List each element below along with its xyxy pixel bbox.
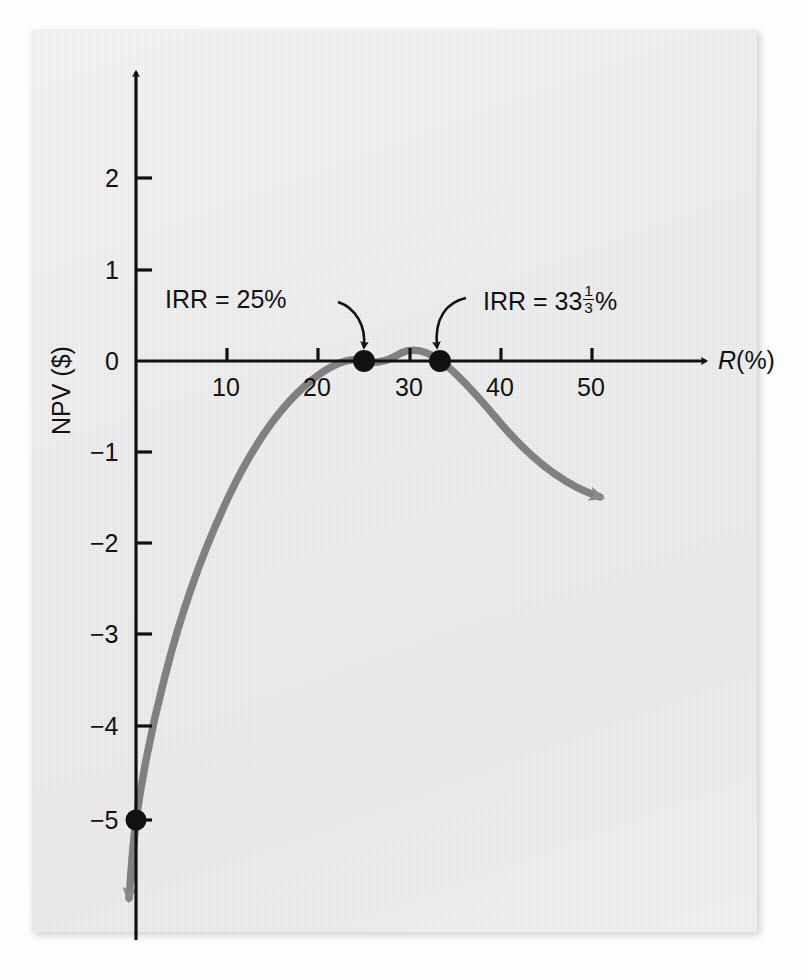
y-axis-ticks [136, 178, 152, 820]
y-tick-label-m3: −3 [90, 622, 119, 647]
marker-irr-25 [353, 350, 375, 372]
fraction-one-third: 13 [583, 283, 594, 316]
y-tick-label-m5: −5 [90, 808, 119, 833]
y-tick-label-0: 0 [105, 349, 119, 374]
fraction-denominator: 3 [583, 300, 594, 316]
x-tick-label-20: 20 [303, 375, 331, 400]
y-axis-title: NPV ($) [47, 295, 76, 435]
figure-page: 2 1 0 −1 −2 −3 −4 −5 10 20 30 40 50 R(%)… [0, 0, 808, 980]
annotation-irr-33-prefix: IRR = 33 [483, 287, 582, 315]
x-axis-title: R(%) [718, 348, 775, 373]
y-tick-label-m1: −1 [90, 440, 119, 465]
y-tick-label-m2: −2 [90, 531, 119, 556]
annotation-irr-33-suffix: % [595, 287, 617, 315]
x-tick-label-50: 50 [577, 375, 605, 400]
x-tick-label-30: 30 [395, 375, 423, 400]
y-tick-label-1: 1 [105, 258, 119, 283]
npv-curve-group [129, 350, 600, 898]
marker-irr-33-third [429, 350, 451, 372]
y-tick-label-m4: −4 [90, 714, 119, 739]
marker-npv-at-zero-rate [126, 810, 147, 831]
annotation-irr-25: IRR = 25% [165, 287, 287, 312]
npv-profile-chart [0, 0, 808, 980]
fraction-numerator: 1 [583, 283, 594, 300]
right-annotation-arrow [437, 298, 466, 347]
annotation-irr-33-third: IRR = 3313% [483, 283, 617, 316]
y-tick-label-2: 2 [105, 166, 119, 191]
left-annotation-arrow [338, 302, 364, 347]
x-axis-title-unit: (%) [736, 346, 775, 374]
data-point-markers [126, 350, 452, 831]
npv-curve [131, 350, 600, 880]
x-tick-label-10: 10 [212, 375, 240, 400]
x-axis-title-var: R [718, 346, 736, 374]
x-tick-label-40: 40 [486, 375, 514, 400]
x-axis-ticks [227, 348, 592, 361]
